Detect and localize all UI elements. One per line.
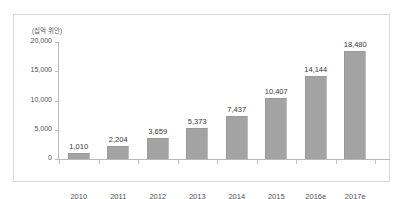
- x-axis-line: [58, 159, 390, 160]
- bar[interactable]: [107, 146, 129, 159]
- x-axis-category-label: 2011: [110, 192, 126, 194]
- bar-value-label: 2,204: [109, 135, 128, 144]
- bar-value-label: 7,437: [227, 105, 246, 114]
- x-axis-category-label: 2016e: [305, 192, 326, 194]
- bar[interactable]: [147, 138, 169, 159]
- bar-group: 5,3732013: [178, 42, 218, 159]
- bar-group: 3,6592012: [138, 42, 178, 159]
- y-axis-tick-label: 15,000: [31, 66, 52, 73]
- bar-group: 14,1442016e: [296, 42, 336, 159]
- x-axis-tick-mark: [59, 160, 60, 164]
- x-axis-category-label: 2015: [268, 192, 285, 194]
- bar[interactable]: [68, 153, 90, 159]
- x-axis-category-label: 2013: [189, 192, 206, 194]
- y-axis-tick-label: 0: [48, 154, 52, 161]
- y-axis-tick-label: 10,000: [31, 96, 52, 103]
- x-axis-tick-mark: [178, 160, 179, 164]
- bar[interactable]: [186, 128, 208, 159]
- bar-group: 10,4072015: [257, 42, 297, 159]
- x-axis-tick-mark: [336, 160, 337, 164]
- bar[interactable]: [344, 51, 366, 159]
- y-axis-tick-label: 5,000: [34, 125, 52, 132]
- x-axis-tick-mark: [217, 160, 218, 164]
- x-axis-category-label: 2012: [149, 192, 166, 194]
- y-axis-unit-label: (십억 위안): [32, 25, 62, 35]
- x-axis-category-label: 2010: [70, 192, 87, 194]
- bar-value-label: 14,144: [304, 65, 327, 74]
- x-axis-category-label: 2017e: [345, 192, 366, 194]
- plot-area: 1,01020102,20420113,65920125,37320137,43…: [59, 42, 375, 159]
- x-axis-tick-mark: [99, 160, 100, 164]
- x-axis-category-label: 2014: [228, 192, 245, 194]
- bar-value-label: 1,010: [69, 142, 88, 151]
- bar-value-label: 5,373: [188, 117, 207, 126]
- x-axis-tick-mark: [375, 160, 376, 164]
- bar[interactable]: [305, 76, 327, 159]
- bar-group: 7,4372014: [217, 42, 257, 159]
- bar[interactable]: [226, 116, 248, 160]
- bar-value-label: 10,407: [265, 87, 288, 96]
- bar-group: 2,2042011: [99, 42, 139, 159]
- x-axis-tick-mark: [296, 160, 297, 164]
- chart-frame: (십억 위안) 05,00010,00015,00020,000 1,01020…: [13, 14, 390, 182]
- bar-group: 1,0102010: [59, 42, 99, 159]
- bar-value-label: 3,659: [148, 127, 167, 136]
- x-axis-tick-mark: [257, 160, 258, 164]
- x-axis-tick-mark: [138, 160, 139, 164]
- bar-value-label: 18,480: [344, 40, 367, 49]
- bar-group: 18,4802017e: [336, 42, 376, 159]
- bar[interactable]: [265, 98, 287, 159]
- y-axis-tick-label: 20,000: [31, 37, 52, 44]
